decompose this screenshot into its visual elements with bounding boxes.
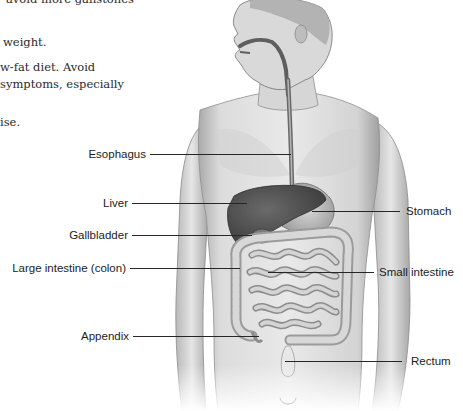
label-gallbladder: Gallbladder (40, 228, 128, 242)
label-liver: Liver (60, 196, 128, 210)
label-large-intestine: Large intestine (colon) (0, 261, 126, 275)
page: avoid more gallstones weight. w-fat diet… (0, 0, 463, 411)
leader-large-intestine (130, 268, 240, 269)
leader-stomach (312, 211, 400, 212)
label-appendix: Appendix (40, 329, 129, 343)
label-small-intestine: Small intestine (379, 265, 454, 279)
leader-appendix (133, 336, 259, 337)
leader-rectum (285, 361, 402, 362)
leader-small-intestine (268, 272, 374, 273)
label-rectum: Rectum (411, 354, 451, 368)
label-stomach: Stomach (406, 204, 451, 218)
leader-gallbladder (132, 235, 252, 236)
leader-liver (132, 203, 247, 204)
leader-esophagus (150, 154, 291, 155)
label-esophagus: Esophagus (60, 147, 146, 161)
